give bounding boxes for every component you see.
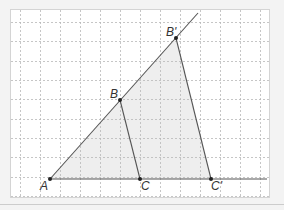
geometry-diagram: ABCB'C'	[0, 0, 284, 210]
label-Bp: B'	[166, 25, 177, 39]
label-A: A	[39, 179, 48, 193]
point-A	[48, 177, 52, 181]
label-Cp: C'	[211, 179, 223, 193]
label-B: B	[110, 87, 118, 101]
point-B	[118, 98, 122, 102]
label-C: C	[141, 179, 150, 193]
